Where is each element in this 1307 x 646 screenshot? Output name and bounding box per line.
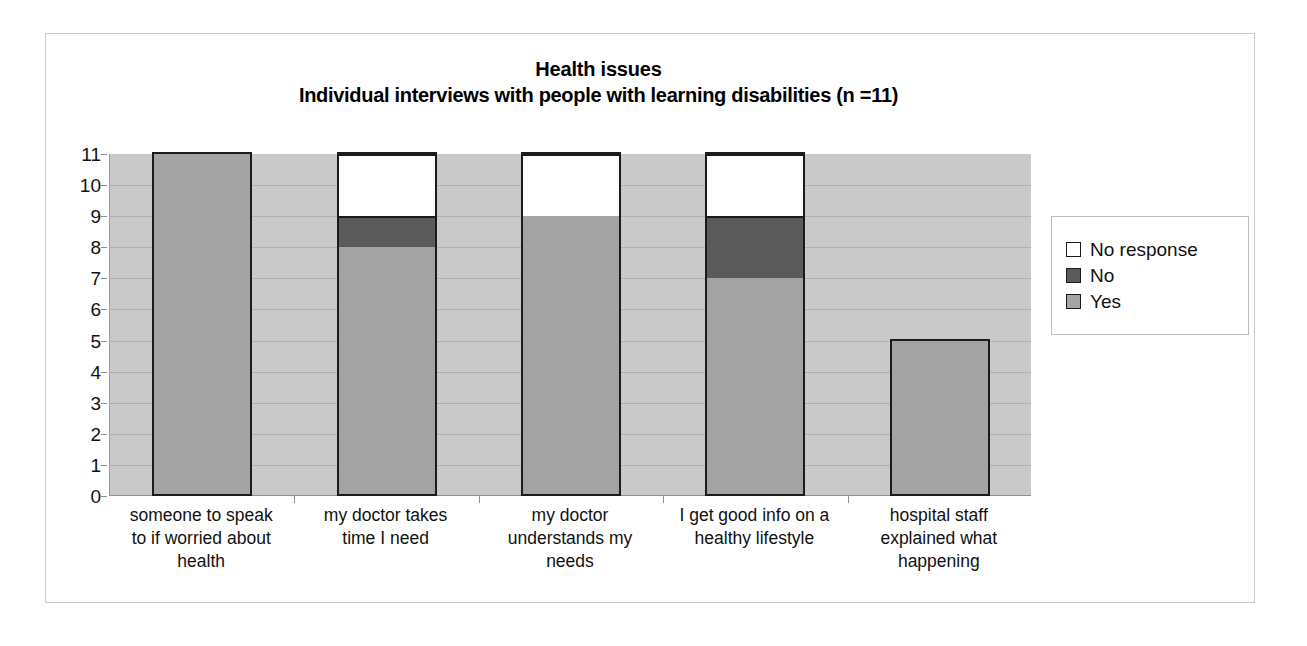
chart-title-block: Health issues Individual interviews with… — [46, 56, 1151, 108]
y-axis-tick-mark — [101, 154, 107, 155]
chart-frame: Health issues Individual interviews with… — [45, 33, 1255, 603]
bar-segment-no-response — [339, 154, 435, 216]
y-axis-tick-labels: 01234567891011 — [57, 154, 101, 496]
y-axis-tick-label: 4 — [90, 362, 101, 381]
x-axis-category-label: my doctor takestime I need — [293, 504, 477, 550]
legend-item[interactable]: No — [1066, 266, 1236, 285]
chart-canvas: Health issues Individual interviews with… — [0, 0, 1307, 646]
category-label-line: someone to speak — [109, 504, 293, 527]
y-axis-tick-mark — [101, 496, 107, 497]
x-axis-tick-mark — [479, 496, 480, 503]
y-axis-tick-label: 5 — [90, 331, 101, 350]
bar-slot — [479, 154, 663, 496]
legend-swatch-icon — [1066, 242, 1081, 257]
bar-segment-no — [707, 216, 803, 278]
category-label-line: happening — [847, 550, 1031, 573]
stacked-bar[interactable] — [705, 152, 805, 496]
y-axis-tick-label: 0 — [90, 487, 101, 506]
category-label-line: health — [109, 550, 293, 573]
legend-label: No — [1090, 266, 1114, 285]
legend-swatch-icon — [1066, 294, 1081, 309]
x-axis-tick-mark — [848, 496, 849, 503]
y-axis-tick-mark — [101, 216, 107, 217]
bars-layer — [110, 154, 1031, 496]
category-label-line: I get good info on a — [662, 504, 846, 527]
category-label-line: understands my — [478, 527, 662, 550]
y-axis-tick-mark — [101, 309, 107, 310]
x-axis-tick-mark — [294, 496, 295, 503]
stacked-bar[interactable] — [521, 152, 621, 496]
y-axis-tick-mark — [101, 341, 107, 342]
category-label-line: time I need — [293, 527, 477, 550]
bar-segment-yes — [892, 341, 988, 494]
bar-slot — [848, 154, 1032, 496]
x-axis-category-label: someone to speakto if worried abouthealt… — [109, 504, 293, 572]
category-label-line: my doctor — [478, 504, 662, 527]
y-axis-tick-mark — [101, 465, 107, 466]
x-axis-category-label: hospital staffexplained whathappening — [847, 504, 1031, 572]
y-axis-tick-label: 6 — [90, 300, 101, 319]
bar-slot — [110, 154, 294, 496]
category-label-line: needs — [478, 550, 662, 573]
bar-segment-no — [339, 216, 435, 247]
category-label-line: to if worried about — [109, 527, 293, 550]
y-axis-tick-mark — [101, 247, 107, 248]
y-axis-tick-mark — [101, 434, 107, 435]
legend-item[interactable]: Yes — [1066, 292, 1236, 311]
bar-segment-yes — [707, 278, 803, 494]
chart-title: Health issues — [46, 56, 1151, 82]
bar-slot — [663, 154, 847, 496]
stacked-bar[interactable] — [890, 339, 990, 496]
bar-segment-no-response — [707, 154, 803, 216]
x-axis-tick-mark — [663, 496, 664, 503]
y-axis-tick-label: 9 — [90, 207, 101, 226]
chart-subtitle: Individual interviews with people with l… — [46, 82, 1151, 108]
y-axis-tick-mark — [101, 278, 107, 279]
y-axis-tick-mark — [101, 403, 107, 404]
plot-wrap: 01234567891011 — [109, 154, 1031, 496]
y-axis-tick-label: 3 — [90, 393, 101, 412]
y-axis-tick-label: 11 — [81, 145, 101, 164]
y-axis-tick-label: 10 — [80, 176, 101, 195]
category-label-line: my doctor takes — [293, 504, 477, 527]
bar-segment-yes — [154, 154, 250, 494]
x-axis-category-label: I get good info on ahealthy lifestyle — [662, 504, 846, 550]
plot-area — [109, 154, 1031, 496]
y-axis-tick-mark — [101, 185, 107, 186]
x-axis-category-labels: someone to speakto if worried abouthealt… — [109, 504, 1031, 599]
chart-legend: No responseNoYes — [1051, 216, 1249, 335]
y-axis-tick-label: 1 — [90, 455, 101, 474]
category-label-line: hospital staff — [847, 504, 1031, 527]
bar-segment-yes — [523, 216, 619, 494]
bar-slot — [294, 154, 478, 496]
y-axis-tick-label: 8 — [90, 238, 101, 257]
y-axis-tick-label: 2 — [90, 424, 101, 443]
x-axis-category-label: my doctorunderstands myneeds — [478, 504, 662, 572]
legend-item[interactable]: No response — [1066, 240, 1236, 259]
stacked-bar[interactable] — [337, 152, 437, 496]
legend-label: No response — [1090, 240, 1198, 259]
stacked-bar[interactable] — [152, 152, 252, 496]
bar-segment-no-response — [523, 154, 619, 216]
category-label-line: explained what — [847, 527, 1031, 550]
legend-swatch-icon — [1066, 268, 1081, 283]
legend-label: Yes — [1090, 292, 1121, 311]
bar-segment-yes — [339, 247, 435, 494]
y-axis-tick-mark — [101, 372, 107, 373]
y-axis-tick-label: 7 — [90, 269, 101, 288]
category-label-line: healthy lifestyle — [662, 527, 846, 550]
